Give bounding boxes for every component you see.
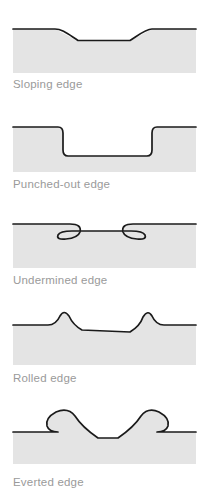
caption-undermined-edge: Undermined edge <box>13 274 107 287</box>
tissue-block <box>13 29 196 73</box>
tissue-block <box>13 127 196 172</box>
tissue-block <box>13 410 196 464</box>
caption-punched-out-edge: Punched-out edge <box>13 178 110 191</box>
panel-rolled-edge: Rolled edge <box>0 295 203 395</box>
panel-undermined-edge: Undermined edge <box>0 194 203 294</box>
panel-punched-out-edge: Punched-out edge <box>0 98 203 198</box>
tissue-block <box>13 313 196 366</box>
panel-everted-edge: Everted edge <box>0 394 203 504</box>
wound-edge-figure: Sloping edge Punched-out edge Undermined… <box>0 0 203 504</box>
panel-sloping-edge: Sloping edge <box>0 0 203 100</box>
caption-rolled-edge: Rolled edge <box>13 372 77 385</box>
caption-everted-edge: Everted edge <box>13 476 84 489</box>
caption-sloping-edge: Sloping edge <box>13 78 83 91</box>
